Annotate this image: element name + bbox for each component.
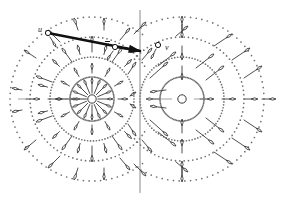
field-arrow-left-far-15 (120, 158, 130, 170)
node-u (45, 30, 50, 35)
field-arrow-left-mid-10 (105, 68, 110, 77)
field-arrow-left-far-12 (12, 87, 22, 90)
field-arrow-left-outer-4 (52, 132, 59, 139)
field-arrow-left-far-18 (103, 18, 105, 30)
field-arrow-left-mid-3 (91, 125, 93, 135)
field-arrow-left-far-23 (130, 104, 136, 108)
field-arrow-left-far-4 (62, 136, 72, 150)
field-arrow-right-diag-10 (232, 48, 250, 60)
field-arrow-right-diag-16 (150, 90, 166, 93)
field-arrow-right-diag-17 (150, 105, 166, 108)
field-arrow-left-axis-0 (26, 98, 40, 100)
field-arrow-under-vbar (107, 51, 113, 60)
field-arrow-left-far-21 (74, 168, 78, 180)
field-arrow-left-far-11 (24, 140, 36, 150)
field-arrow-right-diag-12 (244, 66, 262, 78)
field-arrow-left-far-14 (120, 28, 130, 40)
vector-field-svg (0, 0, 293, 201)
field-arrow-left-far-5 (112, 136, 122, 150)
field-arrow-left-far-9 (48, 156, 60, 168)
label-v-bar-text: v (105, 40, 109, 49)
label-v: v (165, 44, 169, 52)
field-arrow-left-far-19 (103, 168, 105, 180)
field-arrow-left-mid-0 (118, 98, 128, 100)
field-arrow-left-outer-1 (125, 132, 132, 139)
field-arrow-under-u (50, 37, 56, 47)
field-arrow-left-far-3 (91, 146, 93, 162)
field-arrow-right-diag-8 (214, 34, 232, 46)
field-arrow-right-diag-13 (244, 120, 262, 132)
field-arrow-right-diag-5 (196, 130, 214, 144)
label-v-bar: v (105, 41, 110, 49)
field-arrow-left-mid-11 (115, 81, 124, 86)
field-arrow-right-diag-4 (196, 54, 214, 68)
field-arrow-left-far-6 (36, 76, 52, 82)
field-arrow-right-vert-2 (181, 66, 183, 80)
field-arrow-left-outer-5 (38, 111, 48, 114)
field-arrow-right-axis-2 (244, 98, 258, 100)
field-arrow-right-diag-11 (232, 138, 250, 150)
field-arrow-left-far-0 (62, 48, 72, 62)
label-u-text: u (38, 25, 42, 34)
field-arrow-left-far-1 (112, 48, 122, 62)
field-arrow-right-diag-6 (206, 66, 224, 80)
field-arrow-left-outer-7 (52, 59, 59, 66)
field-arrow-left-outer-6 (38, 84, 48, 87)
field-arrow-right-diag-9 (214, 152, 232, 164)
label-v-text: v (165, 43, 169, 52)
field-arrow-left-mid-7 (61, 81, 70, 86)
singularity-right (178, 95, 186, 103)
field-arrow-left-inner-4 (91, 105, 93, 120)
field-arrow-left-mid-9 (91, 63, 93, 73)
field-arrow-left-far-22 (130, 92, 136, 96)
field-arrow-left-mid-2 (105, 122, 110, 131)
field-arrow-right-vert-outer-1 (181, 168, 183, 182)
node-v-bar (112, 44, 117, 49)
field-arrow-right-vert-outer-0 (181, 16, 183, 30)
label-u: u (38, 26, 42, 34)
field-arrow-left-outer-2 (104, 143, 107, 153)
field-arrow-right-diag-7 (206, 118, 224, 132)
field-arrow-right-vert-1 (181, 46, 183, 60)
field-arrow-left-far-13 (12, 110, 22, 113)
field-arrow-left-outer-8 (77, 45, 80, 55)
field-arrow-left-mid-8 (74, 68, 79, 77)
field-arrow-left-inner-0 (98, 98, 113, 100)
field-arrow-left-outer-10 (125, 59, 132, 66)
field-arrow-left-mid-4 (74, 122, 79, 131)
field-arrow-right-vert-4 (181, 139, 183, 153)
singularity-left (88, 95, 96, 103)
field-arrow-left-inner-12 (91, 78, 93, 93)
field-arrow-left-outer-3 (77, 143, 80, 153)
figure-canvas: u v v (0, 0, 293, 201)
node-v (155, 42, 160, 47)
field-arrow-left-far-7 (36, 116, 52, 122)
field-arrow-left-far-2 (91, 36, 93, 52)
field-arrow-left-mid-1 (115, 112, 124, 117)
field-arrow-left-mid-5 (61, 112, 70, 117)
field-arrow-left-far-20 (74, 18, 78, 30)
